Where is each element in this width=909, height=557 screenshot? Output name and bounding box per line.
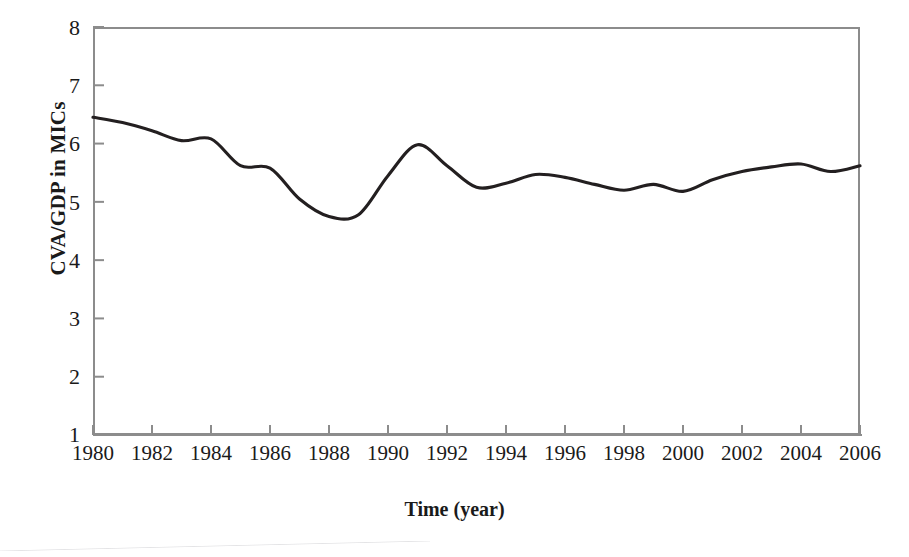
y-tick-label: 5 bbox=[40, 192, 80, 214]
x-axis-line bbox=[93, 434, 862, 436]
y-tick-label: 6 bbox=[40, 133, 80, 155]
y-tick-label: 4 bbox=[40, 250, 80, 272]
x-tick-label: 2006 bbox=[825, 443, 895, 464]
plot-area bbox=[93, 27, 860, 435]
y-tick-label: 3 bbox=[40, 308, 80, 330]
y-tick-label: 8 bbox=[40, 17, 80, 39]
y-tick-label: 2 bbox=[40, 366, 80, 388]
y-tick-label: 7 bbox=[40, 75, 80, 97]
scan-artifact bbox=[0, 541, 430, 551]
chart-figure: CVA/GDP in MICs 8 7 6 5 4 3 2 1 1980 198… bbox=[0, 0, 909, 557]
x-axis-title: Time (year) bbox=[0, 498, 909, 521]
